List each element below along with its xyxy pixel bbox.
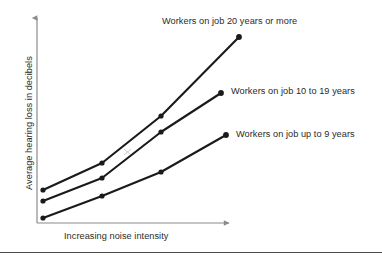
series-0-point <box>158 113 163 118</box>
series-label-workers-10-to-19-years: Workers on job 10 to 19 years <box>231 86 355 96</box>
series-2-point <box>40 215 45 220</box>
y-axis-label: Average hearing loss in decibels <box>24 38 34 208</box>
page-bottom-rule <box>0 252 382 253</box>
series-0-point <box>99 160 104 165</box>
series-label-workers-20-years-or-more: Workers on job 20 years or more <box>162 16 297 26</box>
series-line-workers-10-to-19-years <box>40 90 224 203</box>
series-1-point <box>218 90 224 96</box>
chart-figure: Workers on job 20 years or more Workers … <box>0 0 382 263</box>
scan-artifact-cross-icon <box>124 149 131 155</box>
series-0-polyline <box>43 37 239 190</box>
series-line-workers-up-to-9-years <box>40 132 229 220</box>
series-0-point <box>40 187 45 192</box>
series-label-workers-up-to-9-years: Workers on job up to 9 years <box>236 129 355 139</box>
series-1-point <box>158 129 163 134</box>
series-1-point <box>40 198 45 203</box>
series-1-point <box>99 175 104 180</box>
series-2-point <box>223 132 229 138</box>
series-2-point <box>158 169 163 174</box>
x-axis-label: Increasing noise intensity <box>64 231 168 241</box>
series-line-workers-20-years-or-more <box>40 34 242 193</box>
series-2-point <box>99 193 104 198</box>
series-0-point <box>236 34 242 40</box>
